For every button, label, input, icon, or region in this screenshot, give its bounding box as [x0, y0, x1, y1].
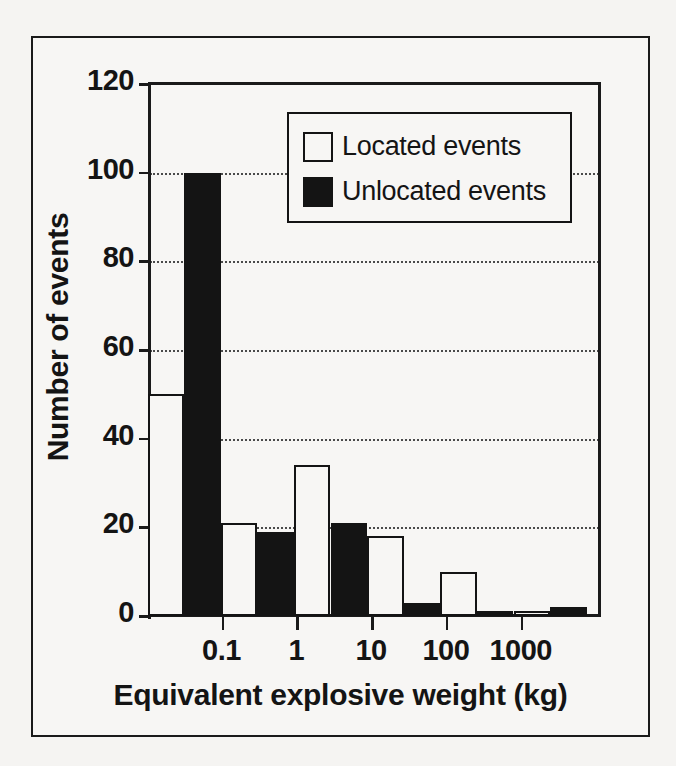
- located-swatch-icon: [303, 132, 333, 162]
- y-tick-label: 20: [6, 507, 134, 540]
- x-tick-mark: [371, 617, 374, 630]
- x-tick-label: 10: [355, 634, 386, 667]
- x-tick-label: 0.1: [202, 634, 241, 667]
- x-tick-mark: [446, 617, 449, 630]
- legend-label-located: Located events: [342, 131, 521, 162]
- bar-located-1-10: [294, 465, 331, 616]
- bar-located-0.1-1: [221, 523, 258, 616]
- bar-unlocated-10-100: [404, 603, 441, 616]
- y-tick-label: 0: [6, 596, 134, 629]
- y-tick-mark: [139, 349, 150, 352]
- unlocated-swatch-icon: [303, 177, 333, 207]
- bar-located-100-1000: [440, 572, 477, 616]
- legend-item-located: Located events: [303, 124, 570, 169]
- x-tick-label: 1: [288, 634, 304, 667]
- legend: Located events Unlocated events: [287, 112, 572, 223]
- x-axis-title: Equivalent explosive weight (kg): [31, 678, 650, 712]
- bar-unlocated-1000-10000: [550, 607, 587, 616]
- scanned-page-background: 020406080100120 0.11101001000 Number of …: [0, 0, 676, 766]
- y-tick-label: 120: [6, 64, 134, 97]
- bar-unlocated-0.1-1: [257, 532, 294, 616]
- bar-located-1000-10000: [514, 611, 551, 616]
- y-axis-title: Number of events: [41, 167, 75, 507]
- x-tick-mark: [222, 617, 225, 630]
- y-tick-mark: [139, 83, 150, 86]
- x-tick-mark: [521, 617, 524, 630]
- x-tick-label: 1000: [489, 634, 552, 667]
- x-tick-label: 100: [422, 634, 469, 667]
- bar-unlocated-100-1000: [477, 611, 514, 616]
- y-tick-mark: [139, 260, 150, 263]
- bar-located-10-100: [367, 536, 404, 616]
- y-tick-mark: [139, 172, 150, 175]
- x-tick-mark: [296, 617, 299, 630]
- legend-label-unlocated: Unlocated events: [342, 176, 546, 207]
- bar-unlocated-1-10: [331, 523, 368, 616]
- legend-item-unlocated: Unlocated events: [303, 169, 570, 214]
- bar-located-0.01-0.1: [148, 394, 185, 616]
- bar-unlocated-0.01-0.1: [184, 173, 221, 616]
